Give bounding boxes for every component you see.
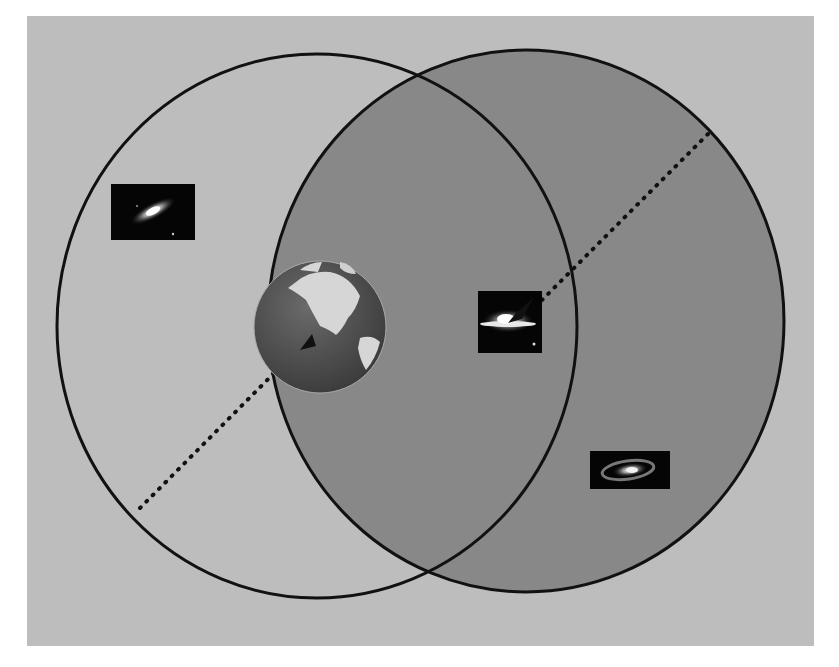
venn-diagram <box>0 0 839 667</box>
spiral-galaxy-icon <box>590 451 670 489</box>
galaxy-center-right <box>478 291 542 353</box>
galaxy-top-left <box>111 184 195 240</box>
figure-caption: Figure ... (caption text cut off at bott… <box>30 655 353 667</box>
galaxy-bottom-right <box>590 451 670 489</box>
spiral-galaxy-icon <box>111 184 195 240</box>
earth-globe-icon <box>254 261 386 393</box>
edge-on-galaxy-icon <box>478 291 542 353</box>
